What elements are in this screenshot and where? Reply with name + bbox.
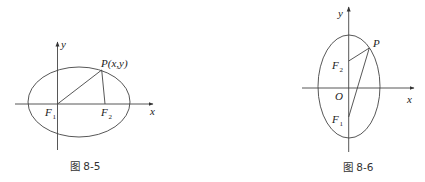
point-p-label: P [372,37,380,49]
figures-canvas: y x P(x,y) F 1 F 2 图 8-5 y x P O F 2 F 1… [0,0,425,182]
point-p-label: P(x,y) [100,57,128,70]
origin-label: O [335,90,343,102]
focus-f1-subscript: 1 [53,113,57,121]
figure-caption: 图 8-5 [70,160,101,172]
focus-f2-subscript: 2 [109,113,113,121]
figure-caption: 图 8-6 [343,161,374,173]
figure-8-5: y x P(x,y) F 1 F 2 图 8-5 [15,38,155,172]
focus-f2-subscript: 2 [340,66,344,74]
focus-f1-label: F [331,113,339,125]
focus-f1-subscript: 1 [340,120,344,128]
focus-f2-label: F [100,106,108,118]
focus-f1-label: F [44,106,52,118]
focus-f2-label: F [331,59,339,71]
ellipse-horizontal [28,67,130,137]
segment-pf1 [58,70,102,104]
y-axis-label: y [60,38,66,50]
segment-pf2 [102,70,105,104]
segment-pf1 [349,48,370,117]
figure-8-6: y x P O F 2 F 1 图 8-6 [302,7,414,173]
y-axis-label: y [337,7,343,19]
x-axis-label: x [406,93,412,105]
x-axis-label: x [149,105,155,117]
